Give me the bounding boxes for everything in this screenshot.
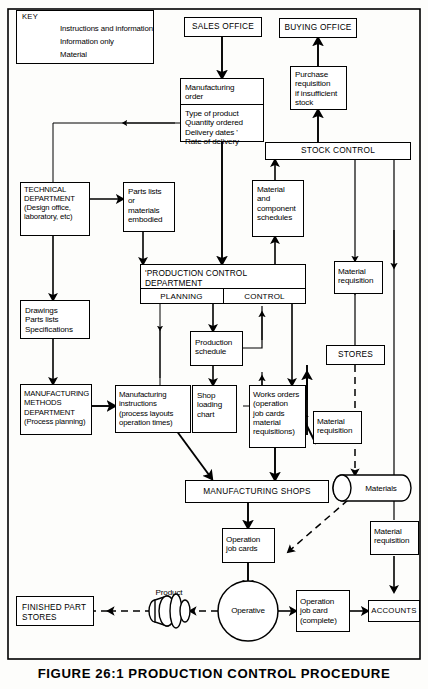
works-orders-label: Works orders (operation job cards materi… bbox=[250, 388, 306, 438]
manufacturing-order-details: Type of product Quantity ordered Deliver… bbox=[182, 107, 264, 148]
manufacturing-methods-department-label: MANUFACTURING METHODS DEPARTMENT (Proces… bbox=[21, 387, 92, 428]
operation-job-card-complete-label: Operation job card (complete) bbox=[297, 595, 350, 627]
key-item-material: Material bbox=[60, 50, 87, 59]
stores-label: STORES bbox=[326, 345, 385, 365]
figure-caption: FIGURE 26:1 PRODUCTION CONTROL PROCEDURE bbox=[0, 666, 428, 681]
buying-office-label: BUYING OFFICE bbox=[279, 18, 357, 38]
purchase-requisition-label: Purchase requisition if insufficient sto… bbox=[292, 68, 347, 109]
product-label: Product bbox=[140, 586, 198, 599]
control-cell-label: CONTROL bbox=[223, 289, 306, 304]
material-requisition-mid-label: Material requisition bbox=[314, 415, 362, 438]
key-title: KEY bbox=[22, 12, 38, 21]
material-requisition-bottom-label: Material requisition bbox=[371, 525, 419, 548]
manufacturing-shops-label: MANUFACTURING SHOPS bbox=[185, 480, 329, 503]
planning-cell-label: PLANNING bbox=[140, 289, 223, 304]
stock-control-label: STOCK CONTROL bbox=[265, 142, 411, 160]
production-schedule-label: Production schedule bbox=[192, 336, 243, 359]
accounts-label: ACCOUNTS bbox=[368, 600, 420, 622]
finished-part-stores-label: FINISHED PART STORES bbox=[19, 601, 95, 625]
key-item-information: Information only bbox=[60, 37, 114, 46]
parts-lists-label: Parts lists or materials embodied bbox=[125, 185, 175, 226]
manufacturing-order-title: Manufacturing order bbox=[182, 81, 264, 104]
sales-office-label: SALES OFFICE bbox=[184, 17, 262, 37]
key-item-instructions: Instructions and information bbox=[60, 24, 153, 33]
drawings-parts-specs-label: Drawings Parts lists Specifications bbox=[22, 304, 90, 336]
material-component-schedules-label: Material and component schedules bbox=[254, 183, 304, 224]
material-requisition-top-label: Material requisition bbox=[335, 265, 383, 288]
shop-loading-chart-label: Shop loading chart bbox=[194, 389, 237, 421]
materials-label: Materials bbox=[352, 482, 410, 495]
manufacturing-instructions-label: Manufacturing instructions (process layo… bbox=[116, 388, 191, 429]
operative-label: Operative bbox=[222, 604, 274, 618]
production-control-department-label: 'PRODUCTION CONTROL DEPARTMENT bbox=[142, 267, 304, 290]
operation-job-cards-label: Operation job cards bbox=[223, 533, 275, 556]
manufacturing-order-divider bbox=[180, 104, 264, 105]
figure-canvas: KEY Instructions and information Informa… bbox=[0, 0, 428, 689]
technical-department-label: TECHNICAL DEPARTMENT (Design office, lab… bbox=[21, 184, 90, 224]
